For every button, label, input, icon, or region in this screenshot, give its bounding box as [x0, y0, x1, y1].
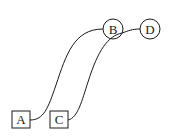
edge-a-to-b — [30, 29, 103, 120]
node-d-label: D — [145, 22, 154, 37]
node-a[interactable]: A — [12, 111, 30, 128]
node-b[interactable]: B — [103, 19, 123, 39]
node-c[interactable]: C — [50, 111, 68, 128]
node-a-label: A — [16, 112, 26, 127]
node-c-label: C — [55, 112, 64, 127]
node-d[interactable]: D — [140, 19, 160, 39]
diagram-canvas: A C B D — [0, 0, 175, 138]
edge-c-to-d — [68, 29, 140, 120]
node-b-label: B — [109, 22, 118, 37]
